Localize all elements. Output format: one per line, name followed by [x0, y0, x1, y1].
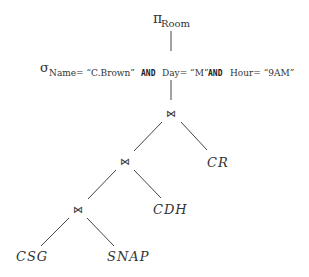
relation-cdh: CDH: [153, 202, 188, 217]
selection-cond-hour: Hour= “9AM”: [230, 68, 294, 78]
expression-tree: π Room σ Name= “C.Brown” AND Day= “M” AN…: [0, 0, 309, 277]
join-icon-top: ⋈: [166, 108, 176, 119]
selection-and-1: AND: [141, 69, 156, 78]
selection-and-2: AND: [208, 69, 223, 78]
relation-cr: CR: [207, 155, 229, 170]
selection-cond-name: Name= “C.Brown”: [49, 68, 135, 78]
relation-csg: CSG: [16, 249, 48, 264]
selection-cond-day: Day= “M”: [162, 68, 209, 78]
edge-midjoin-cdh: [134, 170, 161, 198]
edge-lowjoin-snap: [87, 218, 114, 246]
join-icon-bottom: ⋈: [73, 204, 83, 215]
relation-snap: SNAP: [107, 249, 149, 264]
selection-symbol: σ: [40, 60, 49, 75]
projection-subscript: Room: [161, 18, 191, 29]
join-icon-middle: ⋈: [120, 156, 130, 167]
edge-lowjoin-csg: [41, 218, 69, 246]
edge-midjoin-lowjoin: [88, 170, 116, 199]
edge-topjoin-midjoin: [134, 122, 162, 151]
edge-topjoin-cr: [181, 122, 207, 150]
